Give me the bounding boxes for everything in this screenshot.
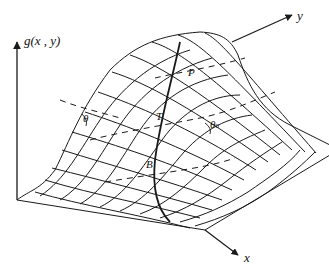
- point-b-label: B: [146, 158, 153, 170]
- point-p-label: P: [188, 66, 195, 78]
- x-axis-label: x: [244, 250, 250, 266]
- surface-mesh: [17, 32, 329, 230]
- point-t-label: T: [156, 110, 162, 122]
- x-axis: [205, 230, 238, 255]
- theta-left-label: θ: [83, 112, 88, 124]
- y-axis: [232, 15, 292, 42]
- y-axis-label: y: [297, 8, 303, 24]
- g-axis-label: g(x , y): [24, 33, 60, 49]
- theta-0-label: θ0: [210, 118, 219, 130]
